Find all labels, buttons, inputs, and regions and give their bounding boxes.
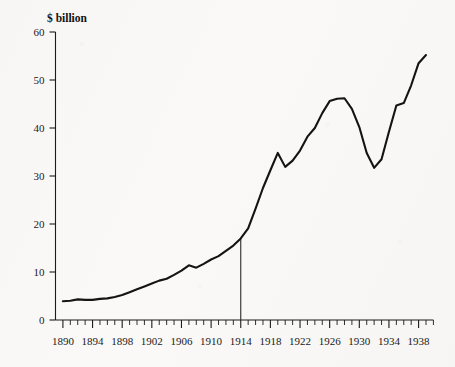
- x-tick-label-1894: 1894: [82, 335, 105, 347]
- y-tick-label-40: 40: [34, 122, 46, 134]
- chart-figure: 0102030405060 18901894189819021906191019…: [0, 0, 455, 367]
- x-tick-label-1906: 1906: [170, 335, 193, 347]
- series-line-0: [63, 55, 426, 301]
- x-tick-label-1902: 1902: [141, 335, 163, 347]
- x-tick-label-1922: 1922: [289, 335, 311, 347]
- y-tick-label-0: 0: [39, 314, 45, 326]
- y-tick-label-10: 10: [34, 266, 46, 278]
- x-tick-label-1930: 1930: [348, 335, 371, 347]
- data-series-layer: [63, 55, 426, 301]
- x-tick-label-1938: 1938: [408, 335, 431, 347]
- y-tick-label-20: 20: [34, 218, 46, 230]
- x-tick-label-1890: 1890: [52, 335, 75, 347]
- y-axis: 0102030405060: [34, 26, 56, 326]
- x-tick-label-1918: 1918: [259, 335, 282, 347]
- y-axis-title: $ billion: [47, 12, 88, 24]
- x-tick-label-1934: 1934: [378, 335, 401, 347]
- x-tick-label-1914: 1914: [230, 335, 253, 347]
- x-axis: 1890189418981902190619101914191819221926…: [52, 320, 434, 347]
- y-tick-label-50: 50: [34, 74, 46, 86]
- y-tick-label-30: 30: [34, 170, 46, 182]
- x-tick-label-1926: 1926: [319, 335, 342, 347]
- x-tick-label-1898: 1898: [111, 335, 134, 347]
- x-tick-label-1910: 1910: [200, 335, 223, 347]
- y-tick-label-60: 60: [34, 26, 46, 38]
- line-chart-canvas: 0102030405060 18901894189819021906191019…: [0, 0, 455, 367]
